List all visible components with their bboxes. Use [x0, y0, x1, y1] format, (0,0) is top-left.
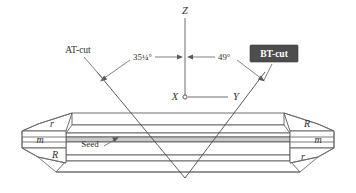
crystal-bottom-face [56, 161, 300, 172]
R-face-left [22, 148, 66, 163]
bt-cut-label-leader [264, 64, 272, 80]
at-angle-leader-line [103, 60, 130, 79]
origin-x-dot [183, 95, 187, 99]
crystal-mid-band-upper [66, 133, 290, 137]
crystal-top-face [72, 113, 284, 125]
r-face-left-label: r [50, 118, 54, 129]
at-leader-group [100, 60, 130, 82]
diagram-canvas: r m R R m r Z X Y [0, 0, 356, 193]
x-axis-label: X [171, 91, 179, 102]
R-face-left-label: R [51, 149, 58, 160]
at-angle-arrow-head [177, 54, 183, 59]
bt-angle-leader-line [237, 60, 262, 79]
crystal-upper-band [66, 125, 290, 133]
m-face-right-label: m [314, 134, 321, 145]
R-face-right-label: R [303, 118, 310, 129]
crystal-cut-diagram: r m R R m r Z X Y [0, 0, 356, 193]
crystal-lower-band [66, 155, 290, 161]
r-face-right-label: r [301, 151, 305, 162]
m-face-left-label: m [36, 134, 43, 145]
at-cut-label-leader [84, 57, 104, 80]
m-face-right [290, 131, 334, 148]
bt-angle-arrow-head [187, 54, 193, 59]
bt-leader-group [237, 60, 265, 82]
at-angle-label: 35¼° [133, 52, 152, 62]
bt-cut-badge: BT-cut [250, 45, 298, 62]
at-cut-label: AT-cut [65, 45, 91, 55]
z-axis-label: Z [182, 5, 188, 16]
crystal-mid-band-lower [66, 142, 290, 155]
bt-cut-label: BT-cut [260, 49, 288, 59]
bt-angle-label: 49° [218, 52, 231, 62]
seed-bar [66, 137, 290, 142]
m-face-left [22, 131, 66, 148]
r-face-right [290, 148, 334, 163]
seed-label: Seed [81, 139, 99, 149]
y-axis-label: Y [233, 91, 240, 102]
